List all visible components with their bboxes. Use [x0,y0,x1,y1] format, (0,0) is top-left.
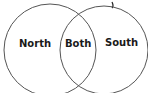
intersection-label: Both [65,38,91,49]
set-label-north: North [19,38,51,49]
venn-diagram: North Both South [0,0,148,93]
set-circle-south [60,6,148,93]
set-label-south: South [105,37,138,48]
